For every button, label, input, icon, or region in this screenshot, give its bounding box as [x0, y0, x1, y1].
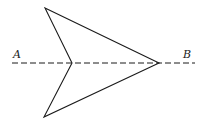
diagram-canvas: A B [0, 0, 203, 127]
label-a: A [12, 48, 21, 61]
label-b: B [182, 48, 191, 61]
